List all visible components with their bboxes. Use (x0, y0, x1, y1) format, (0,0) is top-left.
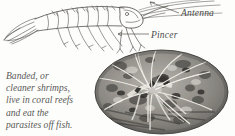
figure-panel: Antenna Pincer Banded, or cleaner shrimp… (0, 0, 235, 136)
caption-block: Banded, or cleaner shrimps, live in cora… (6, 70, 94, 131)
caption-line: parasites off fish. (6, 119, 94, 131)
caption-line: live in coral reefs (6, 94, 94, 106)
caption-line: cleaner shrimps, (6, 82, 94, 94)
caption-line: and eat the (6, 107, 94, 119)
label-pincer: Pincer (151, 30, 178, 40)
banded-shrimp-photo-graphics (95, 50, 228, 134)
caption-line: Banded, or (6, 70, 94, 82)
label-antenna: Antenna (181, 8, 214, 18)
